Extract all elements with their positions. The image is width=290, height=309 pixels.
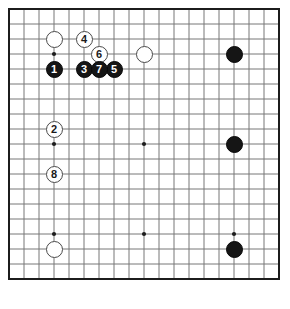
stone-move-number: 3 (81, 64, 87, 75)
stone-move-6[interactable]: 6 (91, 46, 108, 63)
stone-move-3[interactable]: 3 (76, 61, 93, 78)
stone-white-k16[interactable] (136, 46, 153, 63)
stone-move-1[interactable]: 1 (46, 61, 63, 78)
hoshi-left-middle-star-point (52, 142, 56, 146)
stone-move-8[interactable]: 8 (46, 166, 63, 183)
stone-move-7[interactable]: 7 (91, 61, 108, 78)
hoshi-left-bottom-star-point (52, 232, 56, 236)
stone-move-number: 8 (51, 169, 57, 180)
stone-move-number: 7 (96, 64, 102, 75)
stone-move-5[interactable]: 5 (106, 61, 123, 78)
hoshi-center-bottom-star-point (142, 232, 146, 236)
hoshi-left-top-star-point (52, 52, 56, 56)
stone-move-number: 5 (111, 64, 117, 75)
stone-white-d4[interactable] (46, 241, 63, 258)
stone-black-q16[interactable] (226, 46, 243, 63)
stone-move-number: 1 (51, 64, 57, 75)
stone-move-2[interactable]: 2 (46, 121, 63, 138)
go-board-diagram: 12345678 (0, 0, 290, 309)
stone-black-q4[interactable] (226, 241, 243, 258)
stone-white-d16[interactable] (46, 31, 63, 48)
hoshi-right-bottom-star-point (232, 232, 236, 236)
stone-move-number: 2 (51, 124, 57, 135)
stone-black-q10[interactable] (226, 136, 243, 153)
stone-move-number: 4 (81, 34, 87, 45)
stone-move-4[interactable]: 4 (76, 31, 93, 48)
stone-move-number: 6 (96, 49, 102, 60)
hoshi-tengen-star-point (142, 142, 146, 146)
